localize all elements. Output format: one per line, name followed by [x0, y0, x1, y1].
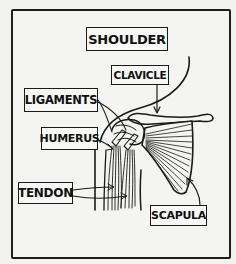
arm-muscle-bundles: [108, 146, 135, 210]
arm-outline-right: [140, 170, 141, 210]
diagram-title: SHOULDER: [86, 27, 168, 51]
scapula-outline: [142, 121, 193, 194]
scapula-label: SCAPULA: [150, 205, 207, 226]
tendon-leader-1: [73, 187, 113, 190]
ligaments-label: LIGAMENTS: [24, 88, 98, 112]
humerus-label: HUMERUS: [41, 127, 98, 150]
humerus-leader: [98, 140, 112, 148]
tendon-label: TENDON: [18, 182, 73, 204]
clavicle-label: CLAVICLE: [111, 65, 169, 85]
ligaments-leader-1: [98, 100, 112, 132]
